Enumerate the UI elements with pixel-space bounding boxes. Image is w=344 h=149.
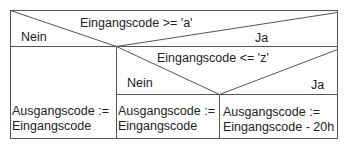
outer-false-stmt-line1: Ausgangscode :=: [12, 104, 109, 119]
outer-true-label: Ja: [255, 31, 268, 46]
outer-false-label: Nein: [21, 30, 47, 45]
outer-false-stmt-line2: Eingangscode: [12, 119, 91, 134]
inner-true-label: Ja: [311, 78, 324, 93]
inner-true-stmt-line1: Ausgangscode :=: [223, 105, 320, 120]
inner-false-stmt-line2: Eingangscode: [118, 119, 197, 134]
outer-condition: Eingangscode >= 'a': [80, 16, 193, 31]
inner-condition: Eingangscode <= 'z': [157, 51, 269, 66]
inner-false-label: Nein: [127, 76, 153, 91]
inner-true-stmt-line2: Eingangscode - 20h: [223, 120, 334, 135]
inner-false-stmt-line1: Ausgangscode :=: [118, 104, 215, 119]
